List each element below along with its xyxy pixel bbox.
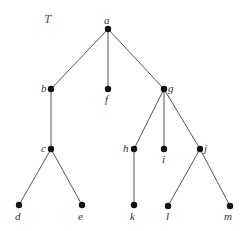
- node-m: [227, 203, 233, 209]
- node-label-c: c: [41, 142, 46, 154]
- tree-title: T: [44, 11, 52, 26]
- edge-j-l: [168, 149, 200, 206]
- node-l: [165, 203, 171, 209]
- node-a: [105, 26, 111, 32]
- node-i: [161, 146, 167, 152]
- node-label-b: b: [41, 82, 47, 94]
- edges: [19, 29, 230, 206]
- edge-g-j: [164, 89, 200, 149]
- node-label-d: d: [15, 210, 21, 222]
- edge-c-d: [19, 149, 51, 205]
- edge-a-g: [108, 29, 164, 89]
- node-j: [197, 146, 203, 152]
- node-label-k: k: [130, 210, 136, 222]
- edge-a-b: [51, 29, 108, 89]
- node-e: [79, 202, 85, 208]
- node-label-i: i: [162, 153, 165, 165]
- node-label-l: l: [166, 210, 169, 222]
- node-d: [16, 202, 22, 208]
- node-f: [105, 86, 111, 92]
- nodes: [16, 26, 233, 209]
- node-label-a: a: [104, 14, 110, 26]
- tree-diagram: T abfgchijdeklm: [0, 0, 248, 231]
- node-label-g: g: [168, 82, 174, 94]
- node-label-h: h: [123, 142, 129, 154]
- node-c: [48, 146, 54, 152]
- edge-g-h: [134, 89, 164, 149]
- edge-j-m: [200, 149, 230, 206]
- node-k: [131, 202, 137, 208]
- node-h: [131, 146, 137, 152]
- node-label-f: f: [105, 93, 110, 105]
- node-label-e: e: [78, 210, 83, 222]
- node-g: [161, 86, 167, 92]
- edge-c-e: [51, 149, 82, 205]
- node-label-m: m: [224, 210, 232, 222]
- node-b: [48, 86, 54, 92]
